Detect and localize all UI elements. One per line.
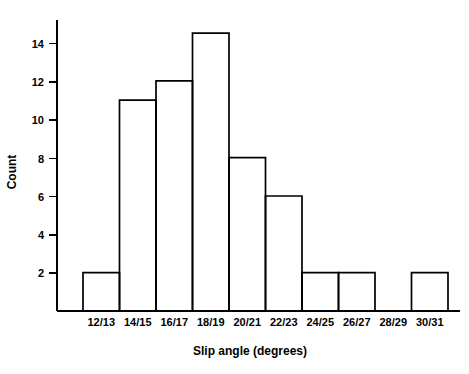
y-axis-title: Count bbox=[5, 155, 19, 190]
histogram-bar bbox=[302, 273, 339, 311]
histogram-chart: Count 14 12 10 8 6 4 2 12/1314/1516/1718… bbox=[0, 0, 469, 374]
y-axis-ticks: 14 12 10 8 6 4 2 bbox=[32, 38, 57, 280]
histogram-bar bbox=[229, 158, 266, 311]
histogram-bar bbox=[339, 273, 376, 311]
histogram-bar bbox=[412, 273, 449, 311]
histogram-bar bbox=[193, 33, 230, 311]
x-tick-label: 26/27 bbox=[343, 316, 371, 328]
bars-group bbox=[83, 33, 448, 311]
x-tick-label: 22/23 bbox=[270, 316, 298, 328]
y-tick-label-6: 6 bbox=[38, 191, 44, 203]
histogram-bar bbox=[83, 273, 120, 311]
y-tick-label-8: 8 bbox=[38, 153, 44, 165]
y-tick-label-12: 12 bbox=[32, 76, 44, 88]
x-tick-label: 20/21 bbox=[233, 316, 261, 328]
x-axis-title: Slip angle (degrees) bbox=[193, 344, 307, 358]
x-tick-label: 16/17 bbox=[160, 316, 188, 328]
histogram-bar bbox=[120, 100, 157, 311]
y-tick-label-4: 4 bbox=[38, 229, 45, 241]
y-tick-label-14: 14 bbox=[32, 38, 45, 50]
x-tick-label: 24/25 bbox=[306, 316, 334, 328]
x-tick-label: 18/19 bbox=[197, 316, 225, 328]
y-tick-label-10: 10 bbox=[32, 114, 44, 126]
histogram-bar bbox=[266, 196, 303, 311]
chart-canvas: Count 14 12 10 8 6 4 2 12/1314/1516/1718… bbox=[0, 0, 469, 374]
y-tick-label-2: 2 bbox=[38, 267, 44, 279]
x-axis-tick-labels: 12/1314/1516/1718/1920/2122/2324/2526/27… bbox=[87, 316, 443, 328]
x-tick-label: 28/29 bbox=[379, 316, 407, 328]
x-tick-label: 12/13 bbox=[87, 316, 115, 328]
x-tick-label: 30/31 bbox=[416, 316, 444, 328]
x-tick-label: 14/15 bbox=[124, 316, 152, 328]
histogram-bar bbox=[156, 81, 193, 311]
